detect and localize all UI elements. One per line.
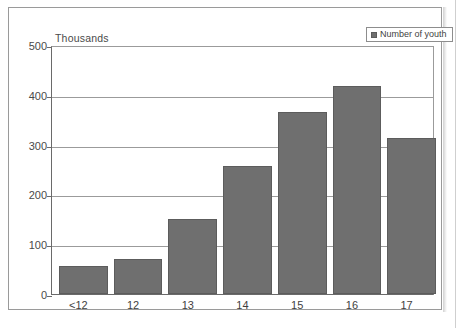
page-edge-line bbox=[455, 0, 456, 328]
x-axis-tick-label: 15 bbox=[270, 299, 325, 312]
x-axis-tick-label: 14 bbox=[215, 299, 270, 312]
y-axis-tick bbox=[47, 296, 52, 297]
y-axis-tick bbox=[47, 97, 52, 98]
bar-chart: Thousands 0100200300400500 <121213141516… bbox=[9, 8, 441, 309]
y-axis-tick-label: 400 bbox=[13, 91, 47, 102]
square-marker-icon bbox=[371, 32, 377, 38]
bar bbox=[278, 112, 327, 294]
y-axis-tick-label: 100 bbox=[13, 240, 47, 251]
bar bbox=[168, 219, 217, 294]
chart-legend: Number of youth bbox=[366, 27, 453, 42]
bar bbox=[333, 86, 382, 294]
bar bbox=[387, 138, 436, 294]
y-axis-tick-label: 0 bbox=[13, 290, 47, 301]
x-axis-tick-label: 17 bbox=[379, 299, 434, 312]
y-axis-tick bbox=[47, 147, 52, 148]
y-axis-tick bbox=[47, 196, 52, 197]
y-axis-tick bbox=[47, 47, 52, 48]
y-axis-labels: 0100200300400500 bbox=[9, 46, 47, 295]
bar bbox=[59, 266, 108, 294]
x-axis-tick-label: 13 bbox=[160, 299, 215, 312]
y-axis-units-label: Thousands bbox=[55, 32, 109, 44]
bar bbox=[114, 259, 163, 294]
y-axis-tick bbox=[47, 246, 52, 247]
y-axis-tick-label: 500 bbox=[13, 41, 47, 52]
x-axis-labels: <12121314151617 bbox=[51, 299, 434, 315]
legend-item-label: Number of youth bbox=[380, 30, 447, 39]
figure-frame: Thousands 0100200300400500 <121213141516… bbox=[8, 7, 442, 310]
x-axis-tick-label: 12 bbox=[106, 299, 161, 312]
bar bbox=[223, 166, 272, 294]
page-edge-shadow bbox=[443, 7, 447, 312]
x-axis-tick-label: <12 bbox=[51, 299, 106, 312]
y-axis-tick-label: 300 bbox=[13, 141, 47, 152]
x-axis-tick-label: 16 bbox=[325, 299, 380, 312]
plot-area bbox=[51, 46, 434, 295]
y-axis-tick-label: 200 bbox=[13, 190, 47, 201]
